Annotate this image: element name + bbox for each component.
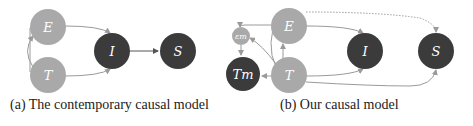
diagram-b-edges xyxy=(240,12,436,86)
node-a-S: S xyxy=(160,33,196,69)
svg-text:εm: εm xyxy=(235,32,247,41)
svg-text:S: S xyxy=(432,44,441,59)
node-b-T: T xyxy=(271,57,307,93)
svg-text:S: S xyxy=(174,44,183,59)
node-a-T: T xyxy=(30,57,66,93)
caption-b: (b) Our causal model xyxy=(280,97,399,113)
node-a-I: I xyxy=(94,33,130,69)
svg-text:Tm: Tm xyxy=(233,67,254,82)
node-b-eps-m: εm xyxy=(232,27,250,45)
svg-text:I: I xyxy=(361,44,368,59)
caption-a: (a) The contemporary causal model xyxy=(10,97,209,113)
svg-text:E: E xyxy=(42,20,53,35)
node-a-E: E xyxy=(30,9,66,45)
node-b-E: E xyxy=(271,8,307,44)
node-b-T-m: Tm xyxy=(226,57,260,91)
svg-text:E: E xyxy=(283,19,294,34)
node-b-S: S xyxy=(418,33,454,69)
svg-text:I: I xyxy=(108,44,115,59)
svg-text:T: T xyxy=(44,68,54,83)
node-b-I: I xyxy=(347,33,383,69)
svg-text:T: T xyxy=(285,68,295,83)
